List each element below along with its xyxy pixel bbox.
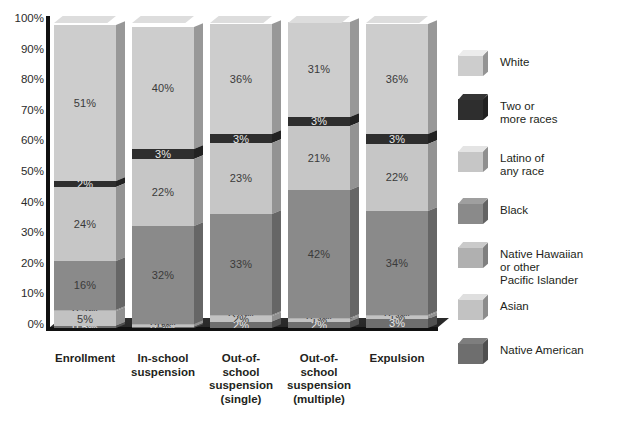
bar-side-segment bbox=[116, 257, 125, 310]
bar-segment[interactable]: 1% bbox=[366, 316, 428, 319]
bar-segment[interactable]: 3% bbox=[132, 149, 194, 158]
legend-swatch-front bbox=[458, 203, 483, 224]
bar-segment[interactable]: 1% bbox=[288, 319, 350, 322]
legend-item[interactable]: Latino of any race bbox=[458, 146, 544, 178]
y-axis-tick: 70% bbox=[0, 104, 44, 115]
bar-segment[interactable]: 16% bbox=[54, 261, 116, 310]
bar-segment-label: 2% bbox=[233, 322, 249, 328]
bar-segment-label: 2% bbox=[233, 316, 249, 322]
legend-swatch-front bbox=[458, 247, 483, 268]
y-axis-tick: 90% bbox=[0, 43, 44, 54]
bar-side-segment bbox=[194, 155, 203, 226]
legend-item[interactable]: White bbox=[458, 50, 529, 76]
x-axis-label-line: Out-of- bbox=[280, 352, 358, 366]
bar-segment[interactable]: 0.3% bbox=[288, 318, 350, 319]
stacked-bar[interactable]: 2%1%0.3%42%21%3%31% bbox=[288, 22, 350, 328]
bar-segment[interactable]: 2% bbox=[210, 322, 272, 328]
bar-group[interactable]: 0.2%1%0.2%32%22%3%40% bbox=[132, 16, 194, 328]
bar-segment-label: 16% bbox=[74, 279, 96, 291]
stacked-bar[interactable]: 0.5%5%0.5%16%24%2%51% bbox=[54, 22, 116, 328]
bar-segment[interactable]: 51% bbox=[54, 25, 116, 181]
bar-segment-label: 2% bbox=[77, 181, 93, 187]
bar-segment[interactable]: 0.4% bbox=[210, 315, 272, 316]
bar-segment-label: 21% bbox=[308, 152, 330, 164]
x-axis-label: Expulsion bbox=[358, 352, 436, 366]
bar-segment[interactable]: 2% bbox=[210, 316, 272, 322]
bar-group[interactable]: 3%1%0.3%34%22%3%36% bbox=[366, 16, 428, 328]
bar-segment[interactable]: 1% bbox=[132, 324, 194, 327]
legend-item[interactable]: Two or more races bbox=[458, 94, 558, 126]
legend-swatch-front bbox=[458, 99, 483, 120]
bar-segment[interactable]: 22% bbox=[132, 159, 194, 226]
x-axis-label-line: school bbox=[280, 366, 358, 380]
legend-label: Latino of any race bbox=[500, 146, 544, 178]
x-axis-label: Enrollment bbox=[46, 352, 124, 366]
bar-segment[interactable]: 0.5% bbox=[54, 326, 116, 328]
legend-item[interactable]: Native American bbox=[458, 338, 584, 364]
bar-segment[interactable]: 23% bbox=[210, 143, 272, 213]
bar-segment[interactable]: 21% bbox=[288, 126, 350, 190]
bar-side-face bbox=[116, 18, 125, 328]
legend-item[interactable]: Black bbox=[458, 198, 528, 224]
bar-segment[interactable]: 33% bbox=[210, 214, 272, 315]
bar-segment[interactable]: 3% bbox=[288, 117, 350, 126]
x-axis-label-line: Enrollment bbox=[46, 352, 124, 366]
stacked-bar-chart: 0%10%20%30%40%50%60%70%80%90%100% 0.5%5%… bbox=[0, 0, 626, 426]
bar-side-segment bbox=[194, 222, 203, 324]
y-axis-tick: 10% bbox=[0, 288, 44, 299]
bar-segment[interactable]: 40% bbox=[132, 27, 194, 149]
bar-group[interactable]: 2%2%0.4%33%23%3%36% bbox=[210, 16, 272, 328]
bar-segment-label: 22% bbox=[386, 171, 408, 183]
bar-segment-label: 36% bbox=[230, 73, 252, 85]
bar-segment[interactable]: 36% bbox=[366, 24, 428, 134]
bar-segment-label: 3% bbox=[389, 134, 405, 143]
legend-swatch bbox=[458, 198, 488, 224]
x-axis-label-line: (multiple) bbox=[280, 393, 358, 407]
bar-segment[interactable]: 2% bbox=[288, 322, 350, 328]
bar-segment[interactable]: 42% bbox=[288, 190, 350, 318]
bar-segment[interactable]: 36% bbox=[210, 24, 272, 134]
bar-segment[interactable]: 32% bbox=[132, 226, 194, 324]
bar-segment[interactable]: 2% bbox=[54, 181, 116, 187]
bar-top-face bbox=[288, 16, 350, 23]
bar-segment[interactable]: 0.5% bbox=[54, 310, 116, 312]
bar-segment-label: 31% bbox=[308, 63, 330, 75]
bar-segment[interactable]: 0.2% bbox=[132, 327, 194, 328]
bar-segment[interactable]: 0.2% bbox=[132, 324, 194, 325]
legend-swatch bbox=[458, 50, 488, 76]
legend-item[interactable]: Native Hawaiian or other Pacific Islande… bbox=[458, 242, 583, 287]
bar-segment-label: 0.2% bbox=[150, 327, 175, 328]
stacked-bar[interactable]: 2%2%0.4%33%23%3%36% bbox=[210, 22, 272, 328]
bar-segment-label: 0.3% bbox=[306, 318, 331, 319]
bar-segment[interactable]: 24% bbox=[54, 187, 116, 260]
bar-segment[interactable]: 5% bbox=[54, 311, 116, 326]
bar-segment-label: 40% bbox=[152, 82, 174, 94]
bar-group[interactable]: 0.5%5%0.5%16%24%2%51% bbox=[54, 16, 116, 328]
bar-group[interactable]: 2%1%0.3%42%21%3%31% bbox=[288, 16, 350, 328]
legend-swatch-front bbox=[458, 55, 483, 76]
bar-side-segment bbox=[428, 21, 437, 135]
legend-item[interactable]: Asian bbox=[458, 294, 529, 320]
bar-segment[interactable]: 3% bbox=[210, 134, 272, 143]
bar-side-segment bbox=[272, 20, 281, 134]
legend-swatch bbox=[458, 146, 488, 172]
legend-label: Two or more races bbox=[500, 94, 558, 126]
legend-label: White bbox=[500, 50, 529, 69]
bar-segment-label: 0.5% bbox=[72, 326, 97, 328]
legend-swatch-top bbox=[458, 146, 488, 152]
legend-swatch-top bbox=[458, 198, 488, 204]
bar-segment-label: 33% bbox=[230, 258, 252, 270]
x-axis-label-line: Expulsion bbox=[358, 352, 436, 366]
legend-swatch-top bbox=[458, 94, 488, 100]
bar-segment[interactable]: 22% bbox=[366, 144, 428, 211]
bar-segment[interactable]: 0.3% bbox=[366, 315, 428, 316]
stacked-bar[interactable]: 0.2%1%0.2%32%22%3%40% bbox=[132, 22, 194, 328]
legend-label: Native American bbox=[500, 338, 584, 357]
bar-segment-label: 36% bbox=[386, 73, 408, 85]
bar-segment[interactable]: 3% bbox=[366, 319, 428, 328]
bar-segment[interactable]: 31% bbox=[288, 22, 350, 117]
stacked-bar[interactable]: 3%1%0.3%34%22%3%36% bbox=[366, 22, 428, 328]
bar-segment[interactable]: 34% bbox=[366, 211, 428, 315]
bar-side-segment bbox=[350, 186, 359, 318]
bar-segment[interactable]: 3% bbox=[366, 134, 428, 143]
